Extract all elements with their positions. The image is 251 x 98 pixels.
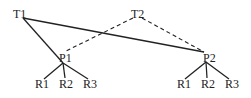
node-p1: P1 [59,51,72,65]
node-p1-r2: R2 [59,77,73,91]
node-t2: T2 [131,7,144,21]
node-p1-r3: R3 [83,77,97,91]
node-p2: P2 [203,51,216,65]
node-p2-r1: R1 [177,77,191,91]
node-p2-r2: R2 [201,77,215,91]
node-p2-r3: R3 [225,77,239,91]
edge-p1-r2 [63,63,65,78]
edge-t2-p2 [142,18,204,52]
edge-t2-p1 [66,18,133,51]
edge-t1-p2 [23,18,204,52]
node-p1-r1: R1 [35,77,49,91]
node-t1: T1 [13,7,26,21]
tree-diagram: T1 T2 P1 P2 R1 R2 R3 R1 R2 R3 [0,0,251,98]
